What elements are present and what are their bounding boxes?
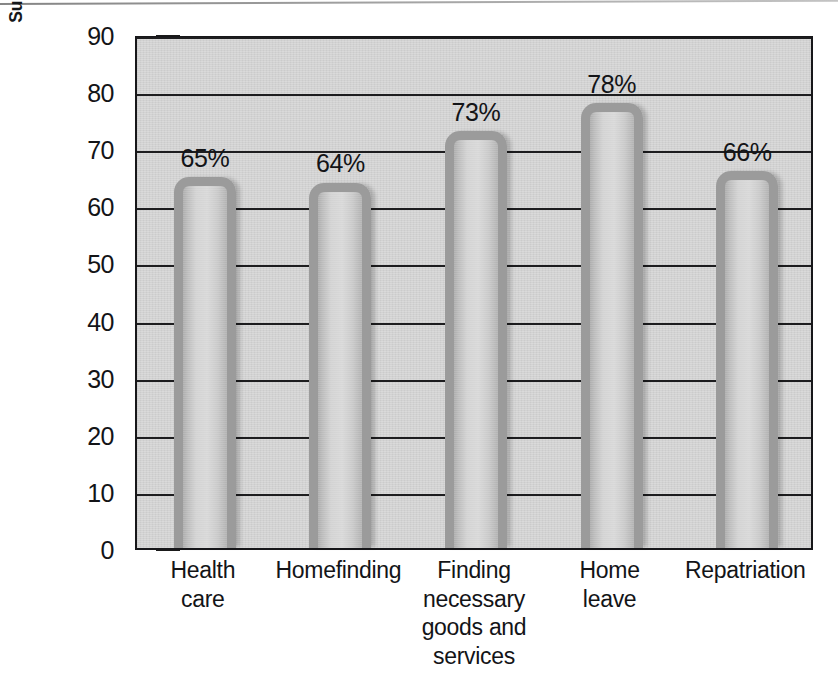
bar[interactable] <box>445 131 507 548</box>
y-axis-tick-label: 40 <box>87 309 114 334</box>
y-axis-tick-label: 20 <box>87 423 114 448</box>
chart-page: Support Needs in Order of Importance to … <box>0 0 838 676</box>
y-axis-ticks: 0102030405060708090 <box>46 36 122 550</box>
bar-value-label: 65% <box>180 146 229 171</box>
y-axis-title: Support Needs in Order of Importance to … <box>2 0 30 64</box>
y-axis-tick-label: 10 <box>87 480 114 505</box>
bar-sheen <box>725 180 769 548</box>
y-axis-tick-label: 30 <box>87 366 114 391</box>
y-axis-tick-label: 90 <box>87 24 114 49</box>
bar-sheen <box>590 112 634 548</box>
bar-value-label: 78% <box>587 72 636 97</box>
y-axis-tick-label: 50 <box>87 252 114 277</box>
plot-area: 65%64%73%78%66% <box>135 36 813 550</box>
bar-value-label: 64% <box>316 151 365 176</box>
x-axis-category-label: Healthcare <box>170 556 235 613</box>
bar[interactable] <box>309 183 371 549</box>
bar[interactable] <box>581 103 643 548</box>
bar[interactable] <box>716 171 778 548</box>
x-axis-labels: HealthcareHomefindingFinding necessarygo… <box>135 556 813 668</box>
bar-sheen <box>183 186 227 548</box>
y-axis-tick-label: 0 <box>101 538 114 563</box>
bar-value-label: 73% <box>452 100 501 125</box>
bar[interactable] <box>174 177 236 548</box>
bar-series: 65%64%73%78%66% <box>137 38 811 548</box>
scan-edge-artifact <box>0 0 838 5</box>
x-axis-category-label: Repatriation <box>685 556 805 585</box>
x-axis-category-label: Homefinding <box>275 556 401 585</box>
y-axis-tick-label: 60 <box>87 195 114 220</box>
y-axis-tick-label: 70 <box>87 138 114 163</box>
x-axis-category-label: Finding necessarygoods andservices <box>408 556 540 670</box>
bar-sheen <box>454 140 498 548</box>
bar-value-label: 66% <box>723 140 772 165</box>
y-axis-tick-label: 80 <box>87 81 114 106</box>
x-axis-category-label: Homeleave <box>580 556 640 613</box>
bar-sheen <box>318 192 362 549</box>
